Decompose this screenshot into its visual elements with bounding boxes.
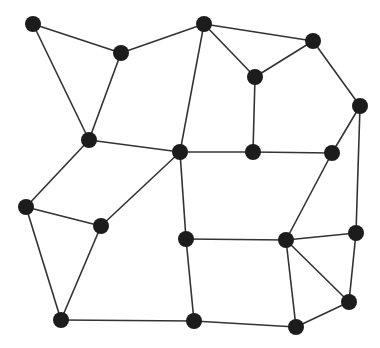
node-D xyxy=(305,33,321,49)
edge-O-P xyxy=(349,233,356,302)
edge-I-J xyxy=(253,152,332,153)
edge-D-F xyxy=(313,41,360,106)
edge-P-S xyxy=(296,302,349,327)
edge-K-L xyxy=(26,207,101,226)
node-E xyxy=(247,69,263,85)
edge-B-G xyxy=(89,53,121,140)
edge-G-K xyxy=(26,140,89,207)
node-H xyxy=(172,144,188,160)
edge-C-D xyxy=(204,24,313,41)
edge-layer xyxy=(26,24,360,327)
edge-L-Q xyxy=(61,226,101,320)
edge-A-B xyxy=(33,24,121,53)
edge-M-N xyxy=(186,239,286,240)
node-M xyxy=(178,231,194,247)
edge-H-M xyxy=(180,152,186,239)
edge-C-E xyxy=(204,24,255,77)
node-O xyxy=(348,225,364,241)
edge-F-O xyxy=(356,106,360,233)
edge-R-S xyxy=(194,321,296,327)
node-layer xyxy=(18,16,368,335)
edge-M-R xyxy=(186,239,194,321)
edge-B-C xyxy=(121,24,204,53)
edge-D-E xyxy=(255,41,313,77)
node-Q xyxy=(53,312,69,328)
edge-A-G xyxy=(33,24,89,140)
node-P xyxy=(341,294,357,310)
node-G xyxy=(81,132,97,148)
edge-J-N xyxy=(286,153,332,240)
edge-N-S xyxy=(286,240,296,327)
node-B xyxy=(113,45,129,61)
edge-N-O xyxy=(286,233,356,240)
edge-N-P xyxy=(286,240,349,302)
edge-K-Q xyxy=(26,207,61,320)
node-J xyxy=(324,145,340,161)
node-L xyxy=(93,218,109,234)
node-S xyxy=(288,319,304,335)
node-F xyxy=(352,98,368,114)
edge-G-H xyxy=(89,140,180,152)
edge-C-H xyxy=(180,24,204,152)
node-R xyxy=(186,313,202,329)
node-K xyxy=(18,199,34,215)
edge-E-I xyxy=(253,77,255,152)
node-I xyxy=(245,144,261,160)
node-C xyxy=(196,16,212,32)
edge-H-L xyxy=(101,152,180,226)
graph-canvas xyxy=(0,0,380,348)
edge-Q-R xyxy=(61,320,194,321)
node-A xyxy=(25,16,41,32)
edge-F-J xyxy=(332,106,360,153)
node-N xyxy=(278,232,294,248)
